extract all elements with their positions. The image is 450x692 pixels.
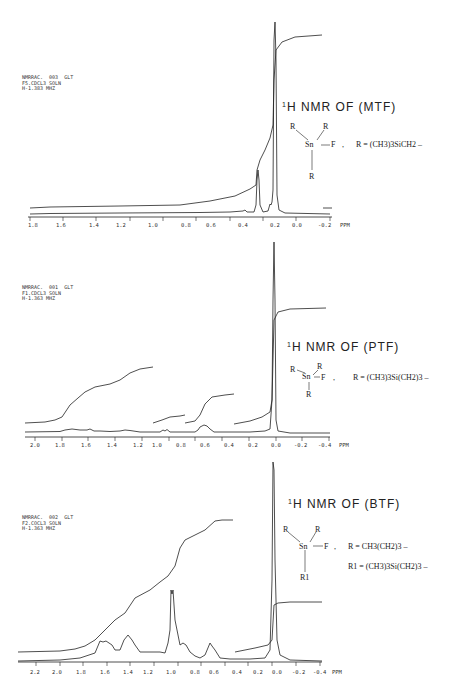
tick-label: 2.2	[30, 669, 40, 675]
tick-label: 1.8	[76, 669, 86, 675]
btf-structure-bonds	[288, 532, 323, 572]
tick-label: 0.0	[272, 669, 282, 675]
btf-spectrum-plot: 2.2 2.0 1.8 1.6 1.4 1.2 1.0 0.8 0.6 0.4 …	[0, 0, 450, 692]
btf-acquisition-header: NMRRAC. 002 GLTF2.COCL3 SOLNH-1.363 MHZ	[22, 515, 73, 532]
tick-label: -0.2	[292, 669, 305, 675]
tick-label: 2.0	[52, 669, 62, 675]
tick-label: 0.2	[253, 669, 263, 675]
tick-label: 0.6	[209, 669, 219, 675]
spectrum-panel-btf: 2.2 2.0 1.8 1.6 1.4 1.2 1.0 0.8 0.6 0.4 …	[0, 0, 450, 692]
tick-label: 0.8	[190, 669, 200, 675]
tick-label: 1.2	[143, 669, 153, 675]
tick-label: 1.4	[123, 669, 134, 675]
btf-integral-curve-1	[18, 520, 233, 652]
tick-label: 1.0	[166, 669, 176, 675]
btf-title: 1H NMR OF (BTF)	[288, 497, 400, 511]
tick-label: -0.4	[313, 669, 327, 675]
btf-integral-curve-2	[235, 602, 322, 652]
tick-label: 1.6	[100, 669, 110, 675]
axis-unit-label: PPM	[332, 669, 343, 675]
btf-spectrum-trace	[18, 462, 322, 661]
tick-label: 0.4	[232, 669, 243, 675]
